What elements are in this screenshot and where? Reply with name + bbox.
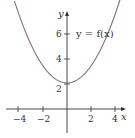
y-axis-label: y bbox=[57, 8, 64, 19]
y-tick-label: 2 bbox=[56, 84, 62, 94]
y-tick-label: 4 bbox=[56, 54, 62, 64]
curve-f-of-x bbox=[14, 0, 124, 83]
x-axis bbox=[6, 107, 126, 111]
x-axis-label: x bbox=[121, 111, 127, 122]
function-plot: −4 −2 2 4 x 2 4 6 y y = f(x) bbox=[0, 0, 135, 138]
y-tick-label: 6 bbox=[56, 29, 62, 39]
y-axis-arrow-icon bbox=[65, 11, 69, 16]
x-tick-label: 4 bbox=[112, 114, 118, 124]
y-axis bbox=[65, 11, 69, 133]
x-tick-label: 2 bbox=[88, 114, 94, 124]
x-tick-label: −4 bbox=[13, 114, 27, 124]
x-tick-label: −2 bbox=[37, 114, 50, 124]
curve-label: y = f(x) bbox=[75, 28, 114, 39]
